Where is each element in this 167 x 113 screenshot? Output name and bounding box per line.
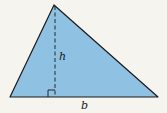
height-label: h <box>59 50 66 63</box>
triangle <box>10 5 158 97</box>
triangle-diagram: h b <box>0 0 167 113</box>
base-label: b <box>81 99 88 112</box>
